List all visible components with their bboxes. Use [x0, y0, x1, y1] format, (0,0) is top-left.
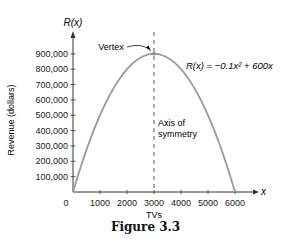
y-tick-label: 300,000	[35, 141, 68, 151]
axis-of-symmetry-label-line2: symmetry	[158, 129, 197, 139]
y-axis-name: R(x)	[64, 17, 83, 28]
x-tick-label: 0	[63, 198, 68, 208]
x-axis-arrow-icon	[253, 190, 259, 195]
y-tick-label: 600,000	[35, 95, 68, 105]
equation-label: R(x) = −0.1x² + 600x	[186, 60, 274, 71]
y-tick-label: 800,000	[35, 64, 68, 74]
x-tick-label: 1000	[90, 198, 110, 208]
x-axis-label: TVs	[146, 210, 163, 220]
y-tick-label: 200,000	[35, 156, 68, 166]
x-axis-name: x	[260, 186, 267, 197]
figure-caption: Figure 3.3	[0, 220, 291, 234]
x-tick-label: 4000	[171, 198, 191, 208]
y-axis-arrow-icon	[71, 31, 76, 38]
x-tick-label: 6000	[225, 198, 245, 208]
vertex-point	[152, 52, 156, 56]
vertex-label: Vertex	[98, 42, 124, 52]
x-tick-label: 3000	[144, 198, 164, 208]
y-tick-label: 900,000	[35, 49, 68, 59]
y-tick-label: 400,000	[35, 126, 68, 136]
x-tick-label: 2000	[117, 198, 137, 208]
vertex-arrowhead-icon	[146, 46, 151, 52]
y-tick-label: 500,000	[35, 110, 68, 120]
y-axis-label: Revenue (dollars)	[6, 84, 16, 155]
revenue-chart: 0100020003000400050006000100,000200,0003…	[0, 0, 291, 220]
axis-of-symmetry-label-line1: Axis of	[158, 118, 186, 128]
vertex-arrow	[127, 45, 149, 49]
y-tick-label: 100,000	[35, 172, 68, 182]
y-tick-label: 700,000	[35, 80, 68, 90]
x-tick-label: 5000	[198, 198, 218, 208]
